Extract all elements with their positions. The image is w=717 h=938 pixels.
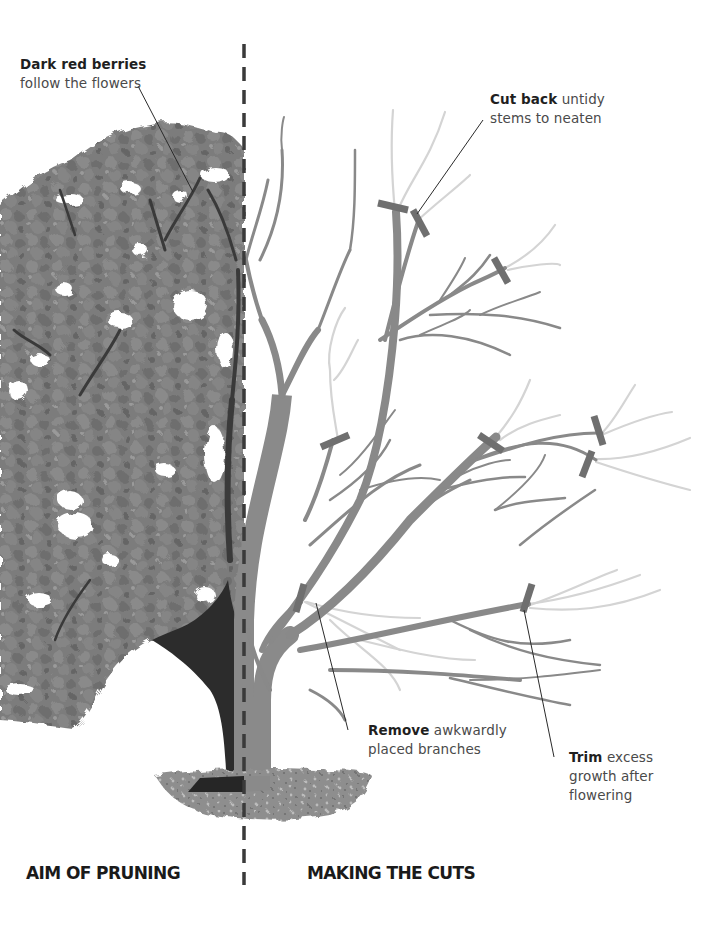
callout-trim-text2: growth after <box>569 768 653 784</box>
cut-mark <box>594 416 603 445</box>
cut-mark <box>296 584 304 612</box>
callout-remove: Remove awkwardly placed branches <box>368 721 507 759</box>
callout-cut-back: Cut back untidy stems to neaten <box>490 90 605 128</box>
callout-cut-back-text1: untidy <box>562 91 605 107</box>
callout-cut-back-bold: Cut back <box>490 91 557 107</box>
callout-berries-bold: Dark red berries <box>20 56 146 72</box>
callout-berries: Dark red berries follow the flowers <box>20 55 146 93</box>
left-panel-title: AIM OF PRUNING <box>26 863 180 883</box>
callout-trim-bold: Trim <box>569 749 602 765</box>
callout-trim: Trim excess growth after flowering <box>569 748 653 805</box>
callout-remove-text2: placed branches <box>368 741 481 757</box>
callout-trim-text3: flowering <box>569 787 632 803</box>
bare-branches <box>244 117 602 790</box>
callout-cut-back-text2: stems to neaten <box>490 110 602 126</box>
removed-growth <box>305 110 690 690</box>
pruning-diagram: Dark red berries follow the flowers Cut … <box>0 0 717 938</box>
callout-remove-text1: awkwardly <box>434 722 507 738</box>
cut-mark <box>494 258 508 283</box>
right-panel-title: MAKING THE CUTS <box>307 863 475 883</box>
callout-trim-text1: excess <box>607 749 653 765</box>
callout-berries-text: follow the flowers <box>20 75 141 91</box>
cut-mark <box>582 451 592 477</box>
callout-remove-bold: Remove <box>368 722 429 738</box>
ground-patch <box>155 769 372 820</box>
cut-mark <box>378 203 408 210</box>
cut-mark <box>321 435 349 447</box>
